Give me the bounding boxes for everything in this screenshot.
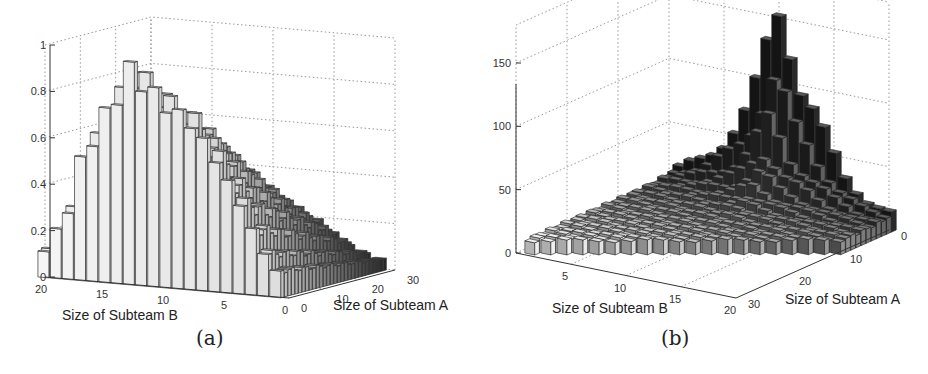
x-axis-label-a: Size of Subteam B (62, 307, 178, 323)
bar3d-plot-b: 05010015051015200102030Size of Subteam B… (464, 0, 928, 374)
z-tick-a: 0 (40, 271, 46, 283)
chart-panel-b: 05010015051015200102030Size of Subteam B… (464, 0, 928, 374)
x-tick-a: 10 (157, 294, 169, 306)
y-tick-b: 20 (799, 275, 811, 287)
z-tick-a: 0.6 (31, 132, 46, 144)
y-tick-a: 0 (301, 302, 307, 314)
y-tick-b: 0 (901, 230, 907, 242)
z-tick-b: 0 (505, 247, 511, 259)
y-axis-label-a: Size of Subteam A (333, 297, 449, 313)
x-tick-a: 0 (282, 304, 288, 316)
z-tick-b: 100 (493, 120, 511, 132)
z-tick-b: 150 (493, 57, 511, 69)
z-tick-a: 0.4 (31, 178, 46, 190)
caption-a: (a) (196, 326, 224, 350)
bar3d-plot-a: 00.20.40.60.81201510500102030Size of Sub… (0, 0, 464, 374)
y-tick-a: 30 (407, 274, 419, 286)
x-tick-b: 5 (562, 270, 568, 282)
z-tick-a: 0.2 (31, 225, 46, 237)
x-tick-a: 15 (96, 288, 108, 300)
chart-panel-a: 00.20.40.60.81201510500102030Size of Sub… (0, 0, 464, 374)
x-tick-b: 20 (724, 304, 736, 316)
y-axis-label-b: Size of Subteam A (785, 291, 901, 307)
x-tick-b: 10 (614, 282, 626, 294)
z-tick-a: 1 (40, 39, 46, 51)
plot-area-a: 00.20.40.60.81201510500102030Size of Sub… (31, 17, 449, 323)
x-tick-a: 5 (221, 299, 227, 311)
x-tick-b: 15 (669, 293, 681, 305)
y-tick-b: 30 (748, 298, 760, 310)
caption-b: (b) (661, 326, 689, 350)
x-axis-label-b: Size of Subteam B (552, 300, 668, 316)
z-tick-a: 0.8 (31, 85, 46, 97)
plot-area-b: 05010015051015200102030Size of Subteam B… (493, 0, 907, 316)
y-tick-a: 20 (372, 283, 384, 295)
y-tick-b: 10 (850, 253, 862, 265)
bars-b (525, 13, 896, 255)
x-tick-a: 20 (35, 283, 47, 295)
z-tick-b: 50 (499, 184, 511, 196)
